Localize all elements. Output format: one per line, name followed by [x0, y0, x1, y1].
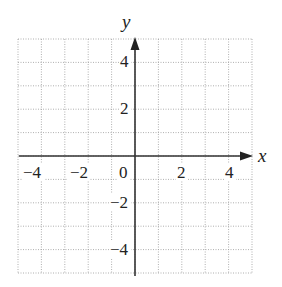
- y-tick-label: 2: [120, 99, 129, 118]
- x-axis-label: x: [257, 145, 267, 166]
- coordinate-plane: x y −4 −2 0 2 4 4 2 −2 −4: [0, 0, 282, 287]
- y-tick-label: −2: [110, 193, 128, 212]
- x-tick-label: −4: [23, 163, 42, 182]
- x-tick-label: −2: [70, 163, 88, 182]
- y-tick-label: 4: [120, 52, 129, 71]
- y-axis-label: y: [120, 11, 131, 32]
- x-axis-arrow-icon: [240, 152, 253, 161]
- x-tick-label: 2: [177, 163, 186, 182]
- y-tick-label: −4: [110, 240, 129, 259]
- x-tick-label: 4: [225, 163, 234, 182]
- origin-label: 0: [119, 163, 128, 182]
